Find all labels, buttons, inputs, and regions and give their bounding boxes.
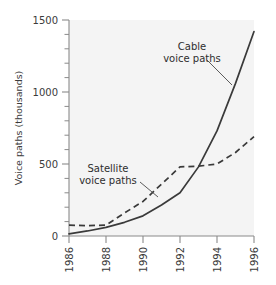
y-axis-major-ticks <box>62 20 69 236</box>
x-tick-label: 1994 <box>212 247 223 272</box>
y-tick-label: 500 <box>39 159 58 170</box>
y-axis-minor-ticks <box>65 34 70 221</box>
x-tick-label: 1986 <box>64 247 75 272</box>
annotation-cable-line2: voice paths <box>163 53 221 64</box>
y-tick-label: 0 <box>52 231 58 242</box>
annotation-satellite-line1: Satellite <box>88 163 129 174</box>
chart-figure: 1500 1000 500 0 1986 1988 1990 1992 1994… <box>0 0 276 285</box>
x-tick-label: 1990 <box>138 247 149 272</box>
annotation-cable-line1: Cable <box>178 41 206 52</box>
y-tick-label: 1000 <box>33 87 58 98</box>
line-chart-svg: 1500 1000 500 0 1986 1988 1990 1992 1994… <box>0 0 276 285</box>
y-axis-title: Voice paths (thousands) <box>13 71 24 186</box>
x-tick-label: 1992 <box>175 247 186 272</box>
x-tick-label: 1996 <box>249 247 260 272</box>
x-axis-ticks <box>69 236 254 243</box>
x-tick-label: 1988 <box>101 247 112 272</box>
plot-area-background <box>69 20 254 236</box>
x-axis-tick-labels: 1986 1988 1990 1992 1994 1996 <box>64 247 260 272</box>
y-tick-label: 1500 <box>33 15 58 26</box>
y-axis-tick-labels: 1500 1000 500 0 <box>33 15 58 242</box>
annotation-satellite-line2: voice paths <box>79 175 137 186</box>
